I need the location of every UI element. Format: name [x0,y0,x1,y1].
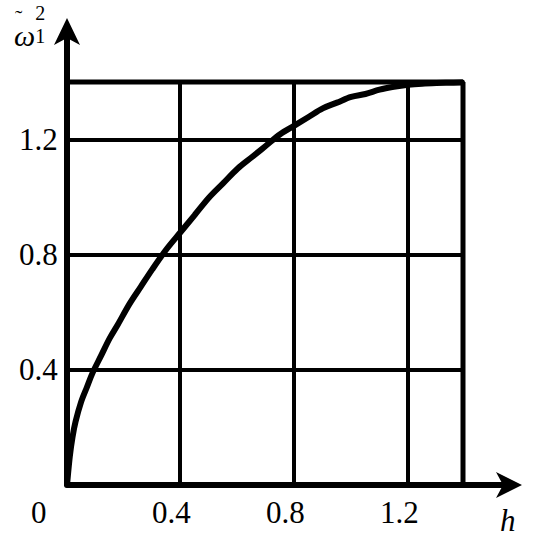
chart-figure: ̃ ω 2 1 1.2 0.8 0.4 0 0.4 0.8 1.2 h [0,0,534,547]
x-axis-name: h [500,503,516,539]
y-tick-label-0.4: 0.4 [19,354,58,385]
omega-subscript: 1 [35,26,45,46]
y-tick-label-1.2: 1.2 [19,124,58,155]
x-tick-label-0: 0 [31,497,47,528]
y-tick-label-0.8: 0.8 [19,239,58,270]
omega-symbol: ̃ ω [14,21,35,51]
omega-indices: 2 1 [35,12,48,46]
x-tick-label-0.8: 0.8 [266,497,305,528]
omega-glyph: ω [14,19,35,52]
plot-canvas [0,0,534,547]
x-tick-label-1.2: 1.2 [380,497,419,528]
omega-superscript: 2 [35,3,45,23]
x-tick-label-0.4: 0.4 [152,497,191,528]
y-axis-label: ̃ ω 2 1 [14,12,48,51]
